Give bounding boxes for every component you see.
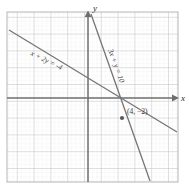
coordinate-plane-svg: x + 2y = -4 3x + y = 10 (4, −2) y x: [0, 0, 189, 189]
x-axis-label: x: [180, 93, 185, 103]
y-axis-label: y: [92, 3, 97, 13]
grid-lines: [7, 12, 178, 182]
intersection-point-dot: [120, 116, 124, 120]
grid-area: [7, 12, 178, 182]
graph-figure: x + 2y = -4 3x + y = 10 (4, −2) y x: [0, 0, 189, 189]
intersection-point-label: (4, −2): [127, 107, 148, 116]
